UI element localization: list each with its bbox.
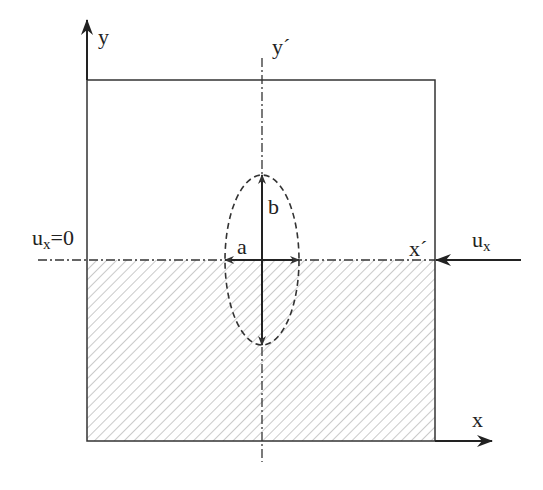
svg-text:ux=0: ux=0 (32, 225, 74, 252)
a-label: a (237, 234, 247, 259)
ux-load-label: ux (472, 227, 491, 254)
y-prime-label: y´ (272, 34, 290, 59)
svg-text:ux: ux (472, 227, 491, 254)
plate-crack-diagram: y y´ x x´ a b ux=0 ux (0, 0, 543, 490)
b-label: b (268, 194, 279, 219)
ux-zero-boundary-label: ux=0 (32, 225, 74, 252)
x-axis-label: x (472, 407, 483, 432)
y-axis-label: y (98, 24, 109, 49)
x-prime-label: x´ (409, 236, 427, 261)
